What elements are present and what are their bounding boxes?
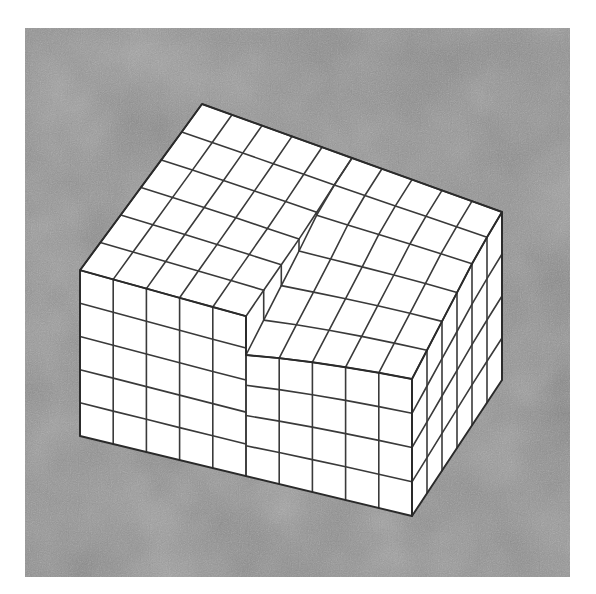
dislocation-mesh <box>0 0 596 594</box>
mesh-faces <box>80 104 502 516</box>
